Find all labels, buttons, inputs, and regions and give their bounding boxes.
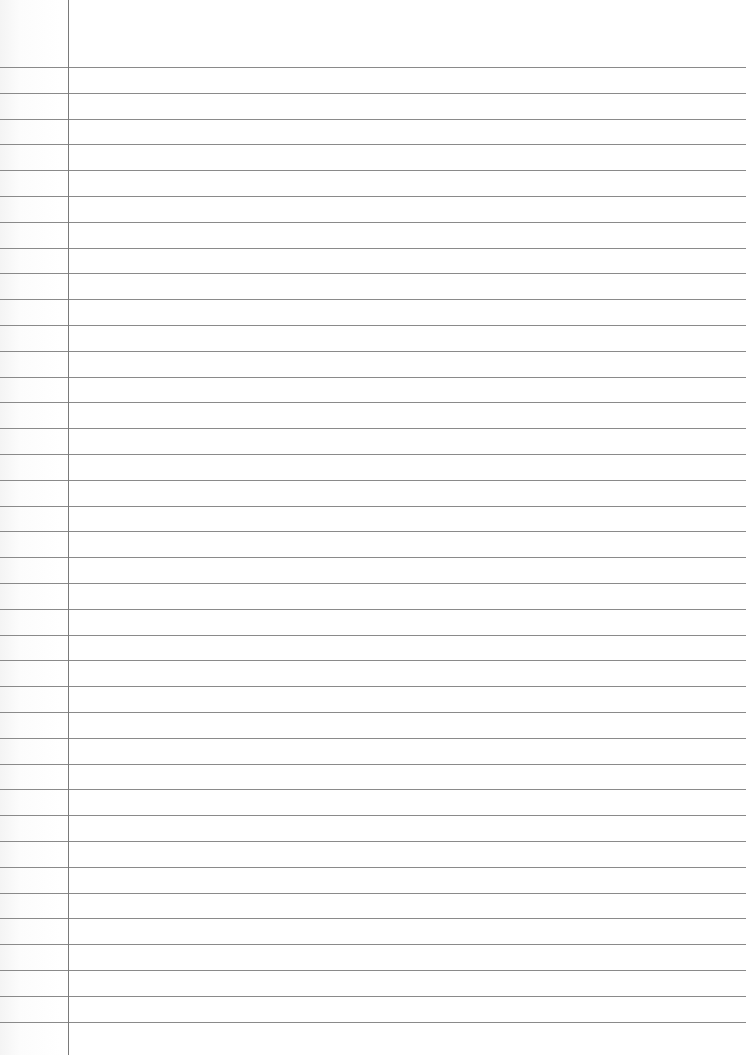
ruled-line [0,170,746,171]
ruled-line [0,996,746,997]
ruled-line [0,67,746,68]
ruled-line [0,119,746,120]
ruled-line [0,1022,746,1023]
ruled-line [0,893,746,894]
ruled-line [0,557,746,558]
ruled-line [0,815,746,816]
ruled-line [0,377,746,378]
ruled-line [0,506,746,507]
ruled-line [0,764,746,765]
ruled-line [0,351,746,352]
ruled-line [0,841,746,842]
ruled-line [0,428,746,429]
ruled-line [0,299,746,300]
ruled-line [0,660,746,661]
ruled-line [0,583,746,584]
ruled-line [0,273,746,274]
ruled-line [0,686,746,687]
ruled-line [0,402,746,403]
ruled-line [0,144,746,145]
ruled-line [0,196,746,197]
ruled-line [0,531,746,532]
margin-line [68,0,69,1055]
ruled-line [0,970,746,971]
ruled-line [0,248,746,249]
ruled-line [0,712,746,713]
ruled-line [0,609,746,610]
ruled-line [0,480,746,481]
ruled-line [0,738,746,739]
ruled-line [0,325,746,326]
ruled-line [0,635,746,636]
ruled-line [0,867,746,868]
ruled-line [0,222,746,223]
ruled-line [0,789,746,790]
ruled-line [0,944,746,945]
ruled-line [0,454,746,455]
ruled-line [0,93,746,94]
lined-paper-sheet [0,0,746,1055]
ruled-line [0,918,746,919]
